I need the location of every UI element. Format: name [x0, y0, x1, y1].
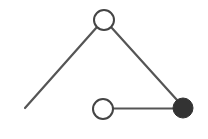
nodes: [93, 10, 193, 119]
node-top: [94, 10, 114, 30]
node-bottom-right-filled: [173, 98, 193, 118]
edge-top-to-left-end: [25, 27, 97, 108]
edges: [25, 27, 177, 109]
graph-diagram: [0, 0, 208, 139]
edge-top-to-bottom-right: [111, 27, 177, 100]
node-bottom-middle: [93, 99, 113, 119]
